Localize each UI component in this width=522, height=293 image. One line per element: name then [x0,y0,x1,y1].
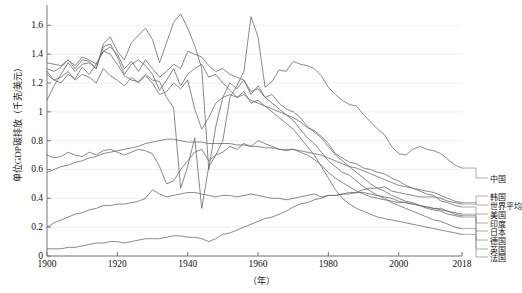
y-tick-label: 0.4 [19,193,43,203]
y-tick-label: 0.2 [19,222,43,232]
y-tick-label: 0.6 [19,164,43,174]
legend-item-0[interactable]: 中国 [490,173,506,184]
series-line [47,17,462,209]
data-series-lines [47,14,462,249]
series-line [47,44,462,207]
series-line [47,187,462,249]
plot-canvas [0,0,522,293]
legend-item-8[interactable]: 法国 [490,252,506,263]
x-tick-label: 1900 [38,259,57,269]
x-axis-title: （年） [0,274,522,287]
x-tick-label: 1940 [178,259,197,269]
x-tick-label: 1980 [319,259,338,269]
x-tick-label: 1920 [108,259,127,269]
y-tick-label: 1 [19,107,43,117]
y-tick-label: 1.2 [19,78,43,88]
legend-leader-line [462,207,488,214]
legend-leader-lines [462,168,488,257]
x-tick-label: 2000 [389,259,408,269]
y-tick-label: 0.8 [19,136,43,146]
y-tick-label: 1.4 [19,49,43,59]
legend-leader-line [462,229,488,249]
y-axis-title: 单位GDP碳排放（千克/美元） [11,38,24,208]
series-line [47,69,462,235]
legend-leader-line [462,168,488,178]
chart-figure: 单位GDP碳排放（千克/美元） 00.20.40.60.811.21.41.6 … [0,0,522,293]
x-tick-label: 1960 [249,259,268,269]
axis-lines [47,5,462,256]
y-tick-label: 1.6 [19,20,43,30]
legend-leader-line [462,234,488,257]
x-tick-label: 2018 [453,259,472,269]
series-line [47,141,462,216]
